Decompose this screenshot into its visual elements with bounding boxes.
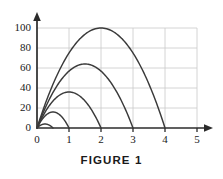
x-tick-label-3: 3 (130, 133, 136, 145)
y-tick-label-60: 60 (20, 61, 32, 73)
x-tick-label-5: 5 (194, 133, 200, 145)
trajectory-4 (37, 64, 133, 128)
y-tick-label-20: 20 (20, 101, 32, 113)
projectile-trajectory-chart: 020406080100 012345 (0, 0, 223, 179)
x-tick-label-1: 1 (66, 133, 72, 145)
y-tick-label-100: 100 (15, 21, 32, 33)
x-tick-label-0: 0 (34, 133, 40, 145)
x-axis-tick-labels: 012345 (34, 133, 200, 145)
x-tick-label-2: 2 (98, 133, 104, 145)
x-tick-label-4: 4 (162, 133, 168, 145)
axes (33, 12, 213, 132)
figure-caption: FIGURE 1 (0, 154, 223, 166)
y-tick-label-0: 0 (26, 121, 32, 133)
vertical-gridlines (69, 28, 197, 128)
x-axis-arrowhead (204, 124, 213, 132)
y-axis-tick-labels: 020406080100 (15, 21, 32, 133)
y-tick-label-80: 80 (20, 41, 32, 53)
y-axis-arrowhead (33, 12, 41, 21)
y-tick-label-40: 40 (20, 81, 32, 93)
figure-container: 020406080100 012345 FIGURE 1 (0, 0, 223, 179)
